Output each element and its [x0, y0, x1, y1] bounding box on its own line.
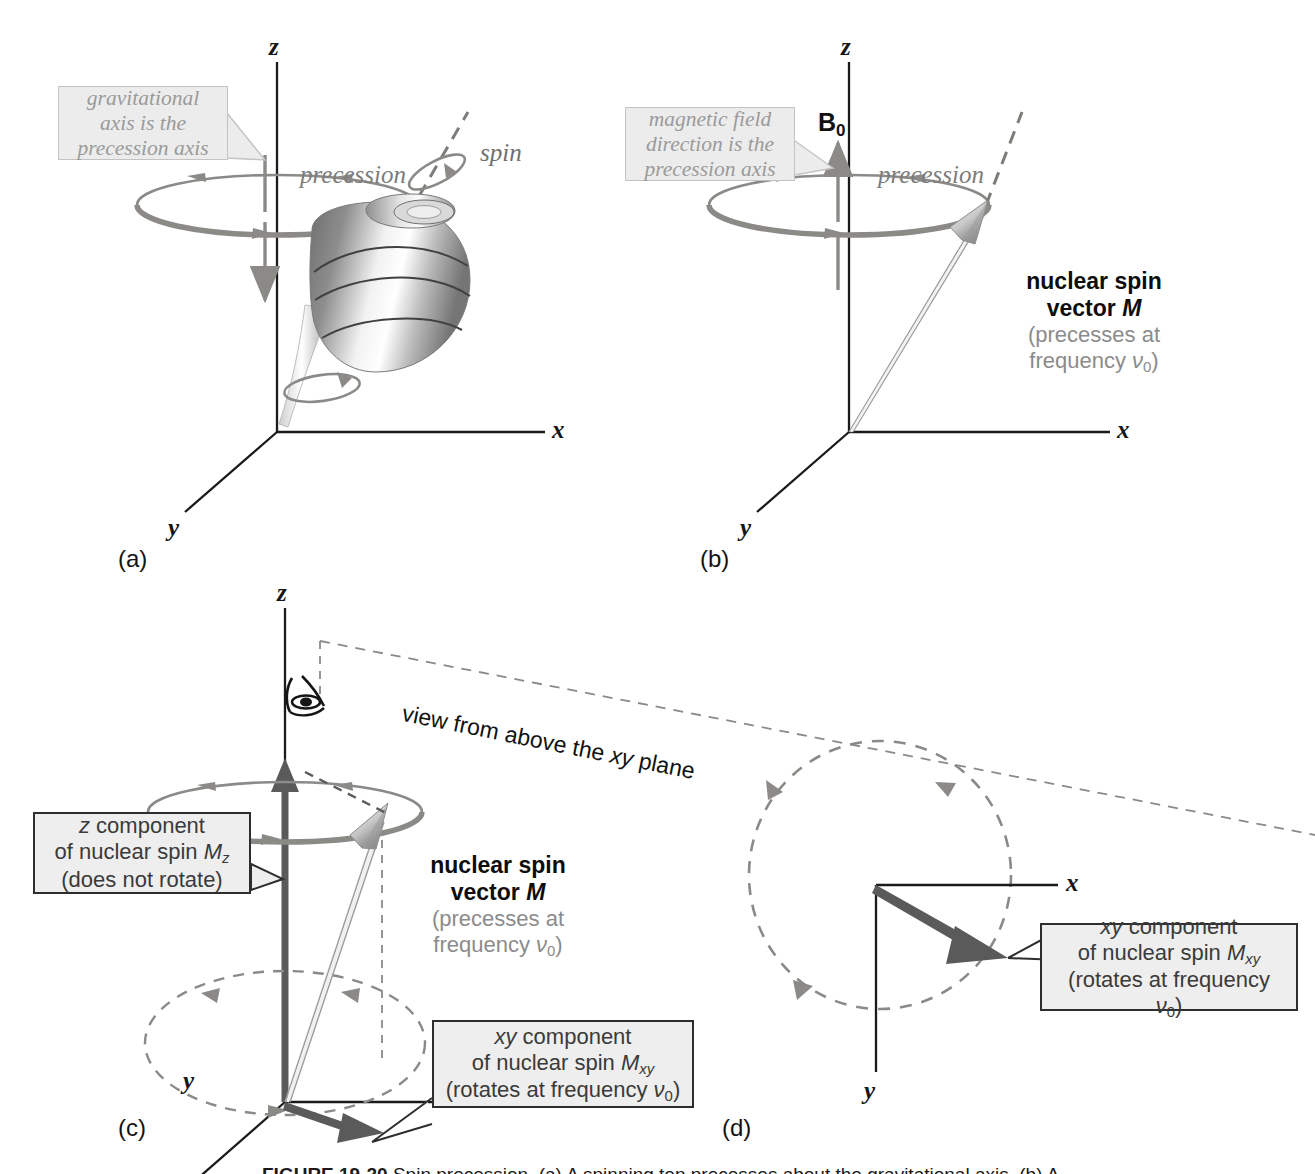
xy-rotation-arrow-d2: [766, 780, 783, 800]
spin-vector-c-edge1: [285, 822, 378, 1102]
axis-label-x-d: x: [1066, 868, 1079, 898]
callout-leader-c-z: [251, 864, 283, 890]
callout-z-line3: (does not rotate): [54, 867, 229, 893]
axis-label-y-b: y: [740, 513, 751, 543]
eye-icon: [287, 676, 324, 715]
axis-y-b: [757, 432, 849, 512]
callout-xy-d-line2: of nuclear spin Mxy: [1052, 940, 1286, 967]
precession-label-a: precession: [300, 160, 406, 190]
mxy-arrowhead-d: [946, 926, 1008, 964]
xy-rotation-arrow-d3: [793, 980, 813, 1000]
axis-label-z-a: z: [269, 32, 279, 62]
spin-vector-b-fill: [851, 214, 983, 432]
top-knob-inner-a: [407, 206, 441, 219]
spin-vector-label-b-line2: vector M: [988, 295, 1200, 322]
panel-label-b: (b): [700, 545, 729, 573]
callout-xy-d-line1: xy component: [1052, 914, 1286, 940]
axis-label-z-b: z: [841, 32, 851, 62]
figure-canvas: z x y gravitational axis is the precessi…: [0, 0, 1315, 1174]
callout-z-text-c: z component of nuclear spin Mz (does not…: [54, 813, 229, 892]
figure-caption-prefix: FIGURE 19-20: [262, 1164, 388, 1174]
xy-rotation-arrow-d1: [935, 782, 956, 797]
panel-label-a: (a): [118, 545, 147, 573]
callout-magnetic-field-b: magnetic field direction is the precessi…: [625, 107, 795, 181]
xy-rotation-arrow-c2: [341, 988, 360, 1003]
spin-vector-label-b-line3: (precesses at: [988, 322, 1200, 348]
spin-vector-label-b-line1: nuclear spin: [988, 268, 1200, 295]
xy-rotation-circle-d: [749, 741, 1011, 1009]
precession-label-b: precession: [878, 160, 984, 190]
panel-label-c: (c): [118, 1114, 146, 1142]
figure-caption-text: Spin precession. (a) A spinning top prec…: [262, 1164, 1099, 1174]
callout-text-a: gravitational axis is the precession axi…: [77, 86, 208, 161]
spin-axis-dashed-b: [986, 112, 1022, 205]
spin-vector-label-c-line2: vector M: [398, 879, 598, 906]
callout-xy-d-line3: (rotates at frequency ν0): [1052, 967, 1286, 1020]
axis-label-y-c: y: [183, 1066, 194, 1096]
top-body-a: [310, 202, 470, 372]
panel-d-graphics: [749, 741, 1060, 1072]
callout-leader-a: [227, 113, 265, 160]
view-leader-eye-c: [305, 772, 390, 815]
spin-vector-label-c-line1: nuclear spin: [398, 852, 598, 879]
axis-label-y-a: y: [168, 513, 179, 543]
figure-caption: FIGURE 19-20 Spin precession. (a) A spin…: [262, 1164, 1122, 1174]
spin-vector-label-c: nuclear spin vector M (precesses at freq…: [398, 852, 598, 960]
callout-z-component-c: z component of nuclear spin Mz (does not…: [33, 812, 251, 894]
callout-xy-c-line1: xy component: [446, 1024, 681, 1050]
callout-z-line1: z component: [54, 813, 229, 839]
spin-vector-b-edge1: [849, 214, 980, 432]
callout-xy-text-d: xy component of nuclear spin Mxy (rotate…: [1052, 914, 1286, 1020]
spin-vector-label-c-line4: frequency ν0): [398, 932, 598, 960]
callout-xy-text-c: xy component of nuclear spin Mxy (rotate…: [446, 1024, 681, 1104]
spin-vector-c-fill: [288, 822, 382, 1102]
spin-vector-label-b-line4: frequency ν0): [988, 348, 1200, 376]
panel-label-d: (d): [722, 1114, 751, 1142]
axis-y-a: [185, 432, 277, 512]
spin-vector-c-edge2: [290, 822, 384, 1102]
callout-xy-c-line2: of nuclear spin Mxy: [446, 1050, 681, 1077]
spin-vector-label-c-line3: (precesses at: [398, 906, 598, 932]
axis-label-x-b: x: [1117, 415, 1130, 445]
callout-xy-component-d: xy component of nuclear spin Mxy (rotate…: [1040, 923, 1298, 1011]
mz-arrowhead-c: [271, 758, 299, 792]
spin-vector-b-edge2: [853, 214, 985, 432]
axis-label-x-a: x: [552, 415, 565, 445]
spin-vector-label-b: nuclear spin vector M (precesses at freq…: [988, 268, 1200, 376]
callout-gravitational-axis-a: gravitational axis is the precession axi…: [58, 86, 228, 160]
field-label-b0: B0: [818, 108, 846, 141]
callout-z-line2: of nuclear spin Mz: [54, 839, 229, 866]
callout-xy-c-line3: (rotates at frequency ν0): [446, 1077, 681, 1104]
callout-xy-component-c: xy component of nuclear spin Mxy (rotate…: [432, 1020, 694, 1108]
spin-label-a: spin: [480, 138, 522, 168]
spin-rotation-ellipse-a: [404, 148, 469, 197]
callout-text-b: magnetic field direction is the precessi…: [644, 107, 775, 182]
xy-rotation-arrow-c1: [201, 988, 220, 1003]
axis-label-z-c: z: [277, 578, 287, 608]
axis-label-y-d: y: [864, 1076, 875, 1106]
